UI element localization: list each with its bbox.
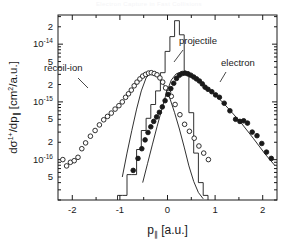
data-point-electron bbox=[136, 156, 141, 161]
y-axis-title: dσ1+/dp∥ [cm2/a.u.] bbox=[7, 61, 21, 154]
annotation-leader bbox=[220, 72, 226, 82]
data-point-recoil-ion bbox=[197, 144, 202, 149]
data-point-electron bbox=[151, 119, 156, 124]
data-point-electron bbox=[228, 109, 233, 114]
data-point-recoil-ion bbox=[105, 114, 110, 119]
x-tick-label: -2 bbox=[68, 204, 76, 215]
data-point-recoil-ion bbox=[61, 157, 66, 162]
x-axis-title: p∥ [a.u.] bbox=[147, 223, 188, 239]
data-point-electron bbox=[245, 121, 250, 126]
annotation-label-recoilion: recoil-ion bbox=[44, 62, 83, 73]
series-line-recoil-ion-theory bbox=[122, 73, 203, 199]
data-point-electron bbox=[146, 130, 151, 135]
data-point-electron bbox=[166, 92, 171, 97]
data-point-recoil-ion bbox=[120, 100, 125, 105]
data-point-electron bbox=[157, 110, 162, 115]
data-point-recoil-ion bbox=[76, 155, 81, 160]
plot-frame bbox=[58, 15, 277, 200]
data-point-recoil-ion bbox=[192, 136, 197, 141]
data-point-electron bbox=[149, 125, 154, 130]
data-point-recoil-ion bbox=[109, 111, 114, 116]
data-point-electron bbox=[222, 101, 227, 106]
series-histogram-projectile bbox=[118, 21, 209, 200]
data-point-electron bbox=[264, 150, 269, 155]
data-point-electron bbox=[160, 105, 165, 110]
data-point-recoil-ion bbox=[201, 151, 206, 156]
data-point-electron bbox=[140, 146, 145, 151]
x-tick-label: 1 bbox=[212, 204, 217, 215]
data-point-recoil-ion bbox=[72, 158, 77, 163]
data-point-recoil-ion bbox=[93, 128, 98, 133]
y-tick-label: 2 bbox=[48, 79, 53, 90]
data-point-recoil-ion bbox=[160, 80, 165, 85]
data-point-electron bbox=[154, 115, 159, 120]
data-point-recoil-ion bbox=[113, 107, 118, 112]
data-point-electron bbox=[169, 86, 174, 91]
data-point-recoil-ion bbox=[206, 157, 211, 162]
data-point-electron bbox=[255, 133, 260, 138]
data-point-recoil-ion bbox=[163, 86, 168, 91]
annotation-label-electron: electron bbox=[221, 57, 255, 68]
annotation-leader bbox=[174, 50, 183, 62]
data-point-electron bbox=[143, 138, 148, 143]
data-point-electron bbox=[163, 98, 168, 103]
data-point-electron bbox=[250, 130, 255, 135]
chart-canvas: -2-1012p∥ [a.u.]210-145210-155210-165dσ1… bbox=[0, 0, 298, 249]
annotation-leader bbox=[78, 78, 88, 88]
y-tick-label: 2 bbox=[48, 21, 53, 32]
data-point-electron bbox=[217, 95, 222, 100]
x-tick-label: -1 bbox=[116, 204, 124, 215]
y-tick-label: 2 bbox=[48, 136, 53, 147]
annotation-label-projectile: projectile bbox=[179, 35, 217, 46]
data-point-recoil-ion bbox=[97, 123, 102, 128]
data-point-recoil-ion bbox=[158, 76, 163, 81]
data-point-recoil-ion bbox=[129, 88, 134, 93]
data-point-recoil-ion bbox=[178, 112, 183, 117]
data-point-recoil-ion bbox=[83, 141, 88, 146]
y-tick-label: 5 bbox=[48, 171, 53, 182]
data-point-recoil-ion bbox=[182, 122, 187, 127]
x-tick-label: 2 bbox=[260, 204, 265, 215]
data-point-electron bbox=[131, 168, 136, 173]
data-point-recoil-ion bbox=[64, 164, 69, 169]
data-point-recoil-ion bbox=[101, 118, 106, 123]
data-point-electron bbox=[171, 81, 176, 86]
data-point-electron bbox=[260, 141, 265, 146]
data-point-recoil-ion bbox=[88, 134, 93, 139]
data-point-electron bbox=[269, 156, 274, 161]
y-tick-label: 10-14 bbox=[33, 37, 53, 49]
data-point-recoil-ion bbox=[173, 102, 178, 107]
y-tick-label: 10-16 bbox=[33, 153, 53, 165]
y-tick-label: 10-15 bbox=[33, 95, 53, 107]
data-point-recoil-ion bbox=[187, 129, 192, 134]
figure-container: Electron Capture in Fast Collisions -2-1… bbox=[0, 0, 298, 249]
y-tick-label: 5 bbox=[48, 113, 53, 124]
data-point-recoil-ion bbox=[117, 103, 122, 108]
data-point-recoil-ion bbox=[80, 146, 85, 151]
x-tick-label: 0 bbox=[165, 204, 170, 215]
